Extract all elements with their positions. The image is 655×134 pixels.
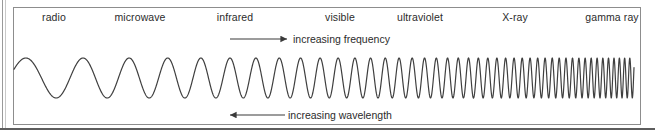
spectrum-figure-page: radio microwave infrared visible ultravi…: [0, 0, 655, 134]
waveform-path: [14, 58, 634, 98]
spectrum-waveform: [0, 0, 655, 134]
